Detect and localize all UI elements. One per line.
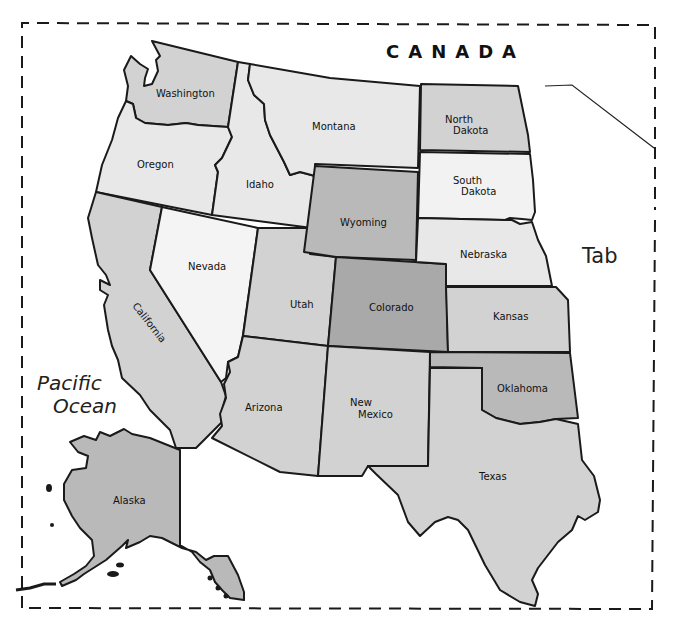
alaska-island [50, 523, 54, 527]
label-texas: Texas [478, 471, 507, 482]
label-wyoming: Wyoming [340, 217, 387, 228]
state-wyoming[interactable] [304, 166, 418, 260]
canada-label: CANADA [386, 41, 525, 62]
western-us-map: CANADA Pacific Ocean Tab Washington Oreg… [0, 0, 674, 629]
alaska-island [107, 571, 119, 577]
pacific-ocean-label-line2: Ocean [53, 394, 117, 418]
label-oklahoma: Oklahoma [497, 383, 548, 394]
label-south-dakota-line1: South [453, 175, 482, 186]
label-idaho: Idaho [246, 179, 274, 190]
alaska-island [216, 586, 221, 591]
label-arizona: Arizona [245, 402, 283, 413]
label-montana: Montana [312, 121, 356, 132]
label-new-mexico-line1: New [350, 397, 372, 408]
pacific-ocean-label-line1: Pacific [37, 371, 102, 395]
label-nevada: Nevada [188, 261, 226, 272]
tab-fold-line [545, 85, 654, 148]
alaska-island [46, 484, 52, 492]
state-washington[interactable] [124, 41, 238, 127]
label-north-dakota-line1: North [445, 114, 473, 125]
alaska-island [116, 563, 124, 568]
label-nebraska: Nebraska [460, 249, 507, 260]
tab-label: Tab [581, 244, 618, 268]
label-oregon: Oregon [137, 159, 174, 170]
state-north-dakota[interactable] [420, 84, 530, 152]
label-alaska: Alaska [113, 495, 146, 506]
label-washington: Washington [156, 88, 215, 99]
label-south-dakota-line2: Dakota [461, 186, 496, 197]
alaska-island [208, 576, 213, 581]
label-utah: Utah [290, 299, 314, 310]
label-colorado: Colorado [369, 302, 414, 313]
state-alaska[interactable] [60, 429, 244, 600]
alaska-island [224, 594, 229, 599]
label-north-dakota-line2: Dakota [453, 125, 488, 136]
label-new-mexico-line2: Mexico [358, 409, 393, 420]
label-kansas: Kansas [493, 311, 528, 322]
